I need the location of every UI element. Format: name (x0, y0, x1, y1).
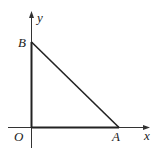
y-axis-label: y (35, 10, 43, 25)
triangle-diagram: y x B O A (0, 0, 158, 160)
segment-AB (32, 42, 120, 128)
point-A-label: A (111, 129, 120, 144)
point-O-label: O (14, 129, 24, 144)
x-axis-label: x (143, 128, 150, 143)
diagram-canvas: y x B O A (0, 0, 158, 160)
y-axis-arrow-icon (29, 11, 34, 18)
point-B-label: B (18, 35, 26, 50)
